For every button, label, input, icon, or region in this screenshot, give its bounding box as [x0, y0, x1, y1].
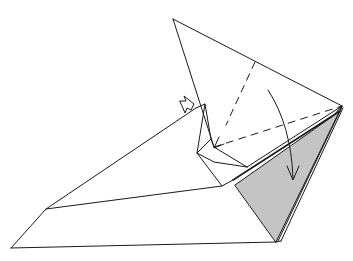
origami-diagram: [0, 0, 353, 261]
shaded-flap: [235, 106, 343, 242]
